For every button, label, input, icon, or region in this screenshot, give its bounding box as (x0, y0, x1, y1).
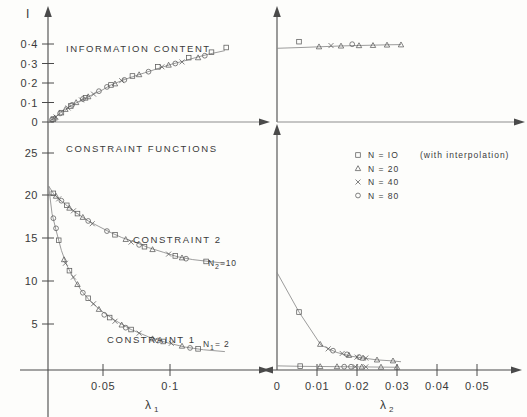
n1-subscript: 1 (210, 344, 214, 351)
xtick-right-0-02: 0·02 (345, 380, 369, 392)
annotation-constraint-2: CONSTRAINT 2 (133, 234, 222, 245)
right-upper-axis-arrowhead (273, 6, 281, 17)
fitted-curve (48, 51, 225, 122)
fitted-curve-2 (49, 186, 225, 352)
ytick-top-0: 0 (31, 116, 38, 128)
lambda1-subscript: 1 (154, 405, 159, 414)
legend-item-2: N = 20 (355, 164, 399, 174)
x-axis-label-lambda1: λ 1 (145, 398, 159, 414)
ytick-top-0-2: 0·2 (21, 77, 38, 89)
plot-data-layer (48, 39, 404, 369)
annotation-n1-target: N 1 = 2 (203, 339, 229, 351)
legend-item-4: N = 80 (356, 191, 400, 201)
xtick-right-0-04: 0·04 (425, 380, 449, 392)
fitted-curve-1 (277, 272, 401, 361)
legend-item-1: N = IO(with interpolation) (356, 150, 510, 160)
axis-group-top-right-horizontal (277, 118, 525, 125)
annotation-information-content: INFORMATION CONTENT (66, 43, 211, 54)
series-triangle (52, 55, 201, 120)
top-left-axis-arrowhead (259, 118, 270, 125)
square-marker (297, 39, 302, 44)
fitted-curve-2 (277, 366, 397, 367)
axis-group-left-vertical (44, 6, 52, 417)
legend-label: N = IO (368, 150, 399, 160)
ytick-top-0-4: 0·4 (21, 38, 38, 50)
n1-symbol: N (203, 339, 210, 349)
right-lower-axis-arrowhead (273, 124, 281, 135)
panel-constraint-functions-lambda1 (49, 186, 225, 352)
series-triangle (318, 341, 396, 362)
axis-group-top-left-horizontal (48, 118, 270, 125)
xtick-right-0-01: 0·01 (305, 380, 329, 392)
square-marker (356, 153, 361, 158)
legend-label: N = 20 (368, 164, 399, 174)
square-marker (224, 45, 229, 50)
chart-svg: 0·4 0·3 0·2 0·1 0 I 25 20 15 10 5 0·05 0… (0, 0, 527, 417)
xtick-right-0-03: 0·03 (385, 380, 409, 392)
series-triangle (53, 193, 184, 260)
ytick-bottom-15: 15 (25, 232, 38, 244)
series-circle (331, 348, 362, 359)
annotation-constraint-1: CONSTRAINT 1 (107, 334, 196, 345)
panel-information-content-lambda1 (48, 45, 229, 122)
ytick-bottom-5: 5 (31, 318, 38, 330)
legend-label: N = 40 (368, 177, 399, 187)
legend-note: (with interpolation) (420, 150, 509, 160)
n1-value: = 2 (215, 339, 229, 349)
cross-marker (71, 208, 76, 213)
axis-group-bottom-left-horizontal (20, 366, 270, 373)
ytick-top-0-3: 0·3 (21, 58, 38, 70)
circle-marker (356, 193, 361, 198)
xtick-right-0: 0 (274, 380, 281, 392)
ytick-bottom-25: 25 (25, 147, 38, 159)
figure-canvas: 0·4 0·3 0·2 0·1 0 I 25 20 15 10 5 0·05 0… (0, 0, 527, 417)
annotation-n2-target: N 2 =10 (208, 258, 237, 270)
panel-constraint-functions-lambda2 (277, 272, 401, 369)
series-circle (59, 198, 188, 261)
ytick-bottom-10: 10 (25, 275, 38, 287)
cross-marker (91, 301, 96, 306)
series-cross (54, 59, 185, 119)
cross-marker (329, 43, 334, 48)
top-right-axis-arrowhead (514, 118, 525, 125)
n2-symbol: N (208, 258, 215, 268)
annotation-constraint-functions: CONSTRAINT FUNCTIONS (66, 143, 218, 154)
cross-marker (91, 92, 96, 97)
legend-label: N = 80 (368, 191, 399, 201)
series-cross (56, 196, 171, 256)
axis-group-right-vertical (273, 6, 281, 370)
xtick-right-0-05: 0·05 (465, 380, 489, 392)
series-square (297, 39, 302, 44)
n2-subscript: 2 (215, 263, 219, 270)
n2-value: =10 (220, 258, 237, 268)
xtick-left-0-05: 0·05 (91, 380, 115, 392)
series-square (51, 45, 228, 121)
lambda2-symbol: λ (380, 398, 386, 412)
lambda1-symbol: λ (145, 398, 151, 412)
lambda2-subscript: 2 (389, 405, 394, 414)
fitted-curve-1 (49, 186, 225, 263)
triangle-marker (355, 166, 360, 171)
legend: N = IO(with interpolation)N = 20N = 40N … (355, 150, 509, 201)
xtick-left-0-1: 0·1 (161, 380, 178, 392)
ytick-top-0-1: 0·1 (21, 97, 38, 109)
x-axis-label-lambda2: λ 2 (380, 398, 394, 414)
bottom-right-axis-arrowhead (511, 366, 522, 373)
left-axis-arrowhead (44, 6, 52, 17)
y-axis-label-I: I (26, 7, 29, 21)
bottom-right-axis-arrowhead-left (262, 366, 273, 373)
legend-item-3: N = 40 (356, 177, 400, 187)
series-cross (329, 43, 334, 48)
triangle-marker (61, 257, 66, 262)
cross-marker (356, 180, 361, 185)
panel-information-content-lambda2 (277, 39, 404, 48)
cross-marker (71, 275, 76, 280)
ytick-bottom-20: 20 (25, 189, 38, 201)
series-square (51, 191, 208, 264)
